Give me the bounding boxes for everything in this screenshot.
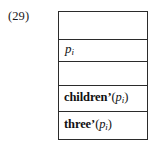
feature-structure-box: pi children’(pi) three’(pi) [58, 11, 148, 140]
children-expression: children’(pi) [64, 90, 128, 107]
node-variable-subscript: i [72, 47, 75, 57]
children-argument: (pi) [112, 90, 129, 104]
table-row-node-label: pi [59, 40, 147, 62]
table-row-three: three’(pi) [59, 112, 147, 139]
three-argument: (pi) [95, 117, 112, 131]
table-row-empty-top [59, 12, 147, 40]
children-prime-mark: ’ [107, 90, 111, 104]
children-argument-subscript: i [122, 95, 124, 105]
three-argument-subscript: i [105, 122, 107, 132]
table-row-empty-middle [59, 62, 147, 86]
children-function-name: children [64, 90, 107, 104]
figure-container: (29) pi children’(pi) three’(pi) [0, 0, 158, 146]
three-expression: three’(pi) [64, 117, 112, 134]
table-row-children: children’(pi) [59, 86, 147, 112]
node-variable: pi [64, 42, 74, 59]
three-function-name: three [64, 117, 91, 131]
equation-number: (29) [8, 9, 29, 23]
